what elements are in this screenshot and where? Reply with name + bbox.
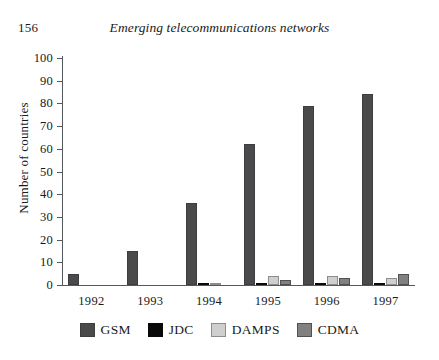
- bar-gsm-1995: [244, 144, 255, 285]
- y-axis-tick-label: 10: [7, 256, 53, 268]
- bar-group: [68, 58, 115, 285]
- legend-item-jdc: JDC: [148, 323, 194, 337]
- x-axis-tick-label: 1997: [351, 294, 421, 308]
- legend-swatch-cdma: [297, 323, 312, 337]
- bar-gsm-1993: [127, 251, 138, 285]
- y-axis-tick-label: 60: [7, 143, 53, 155]
- legend-item-damps: DAMPS: [211, 323, 280, 337]
- bar-chart-figure: Number of countries 01020304050607080901…: [0, 50, 439, 360]
- bar-gsm-1997: [362, 94, 373, 285]
- plot-area: [62, 58, 415, 285]
- bar-jdc-1997: [374, 283, 385, 285]
- bar-group: [244, 58, 291, 285]
- legend-item-cdma: CDMA: [297, 323, 360, 337]
- legend-label-gsm: GSM: [101, 323, 131, 337]
- y-axis-tick-label: 40: [7, 188, 53, 200]
- page-header: 156 Emerging telecommunications networks: [0, 20, 439, 40]
- bar-gsm-1996: [303, 106, 314, 285]
- y-axis-tick-label: 50: [7, 166, 53, 178]
- bar-jdc-1996: [315, 283, 326, 285]
- bar-group: [186, 58, 233, 285]
- bar-jdc-1995: [256, 283, 267, 285]
- legend-label-cdma: CDMA: [318, 323, 360, 337]
- bar-cdma-1997: [398, 274, 409, 285]
- y-axis-tick-label: 0: [7, 279, 53, 291]
- legend-item-gsm: GSM: [80, 323, 131, 337]
- legend-swatch-damps: [211, 323, 226, 337]
- y-axis-tick-label: 70: [7, 120, 53, 132]
- y-axis-tick-label: 20: [7, 234, 53, 246]
- legend-label-jdc: JDC: [169, 323, 194, 337]
- bar-group: [303, 58, 350, 285]
- y-axis-tick: [57, 285, 63, 286]
- bar-gsm-1992: [68, 274, 79, 285]
- bar-cdma-1995: [280, 280, 291, 285]
- bar-group: [362, 58, 409, 285]
- chart-legend: GSMJDCDAMPSCDMA: [0, 323, 439, 337]
- bar-damps-1996: [327, 276, 338, 285]
- y-axis-tick-label: 90: [7, 75, 53, 87]
- x-axis-line: [62, 285, 415, 286]
- bar-damps-1995: [268, 276, 279, 285]
- bar-damps-1994: [210, 283, 221, 285]
- running-title: Emerging telecommunications networks: [0, 20, 439, 36]
- y-axis-tick-label: 100: [7, 52, 53, 64]
- bar-group: [127, 58, 174, 285]
- y-axis-tick-label: 30: [7, 211, 53, 223]
- bar-cdma-1996: [339, 278, 350, 285]
- y-axis-tick-labels: 0102030405060708090100: [0, 50, 53, 293]
- legend-swatch-gsm: [80, 323, 95, 337]
- legend-swatch-jdc: [148, 323, 163, 337]
- bar-gsm-1994: [186, 203, 197, 285]
- bar-jdc-1994: [198, 283, 209, 285]
- y-axis-tick-label: 80: [7, 97, 53, 109]
- legend-label-damps: DAMPS: [232, 323, 280, 337]
- bar-damps-1997: [386, 278, 397, 285]
